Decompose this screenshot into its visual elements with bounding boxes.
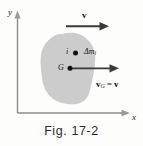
top-velocity-arrow-icon <box>100 22 110 30</box>
mass-element-label: Δmi <box>84 48 96 56</box>
point-i-dot-icon <box>73 51 78 56</box>
figure-caption: Fig. 17-2 <box>0 124 143 138</box>
particle-index-label: i <box>66 48 68 56</box>
mass-element-symbol: Δm <box>84 47 94 56</box>
x-axis-arrow-icon <box>122 110 131 116</box>
point-g-dot-icon <box>68 66 73 71</box>
centroid-velocity-equation: vG = v <box>96 74 118 90</box>
x-axis-label: x <box>132 113 136 122</box>
y-axis-arrow-icon <box>14 11 20 19</box>
centroid-label: G <box>58 64 64 72</box>
y-axis-label: y <box>8 8 12 17</box>
body-velocity-symbol: v <box>114 79 119 89</box>
figure-container: y x v i Δmi G vG = v Fig. 17-2 <box>0 0 143 146</box>
mass-element-subscript: i <box>94 50 96 56</box>
centroid-velocity-arrow-icon <box>110 64 120 72</box>
top-velocity-label: v <box>82 11 87 20</box>
